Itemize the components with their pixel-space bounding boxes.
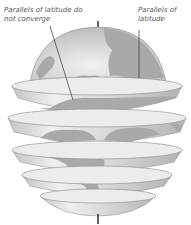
north-cap — [30, 27, 166, 82]
label-parallels-of-latitude: Parallels of latitude — [138, 6, 188, 24]
slice-1 — [12, 77, 182, 113]
slice-2 — [8, 109, 186, 142]
label-parallels-do-not-converge: Parallels of latitude do not converge — [4, 6, 94, 24]
globe-slices-diagram — [0, 0, 191, 225]
south-cap — [40, 189, 156, 216]
